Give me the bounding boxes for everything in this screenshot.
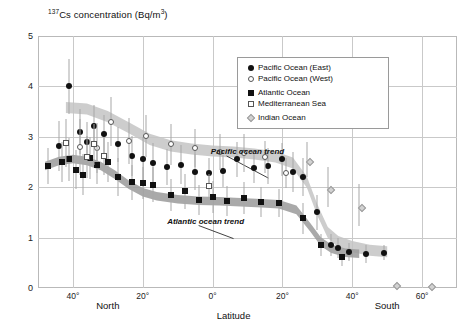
data-point — [241, 195, 247, 201]
x-axis-tick-label: 60° — [416, 291, 429, 301]
data-point — [150, 160, 156, 166]
legend-item: Mediterranean Sea — [244, 98, 382, 109]
data-point — [45, 163, 51, 169]
data-point — [258, 199, 264, 205]
data-point — [192, 145, 198, 151]
data-point — [192, 169, 198, 175]
data-point — [108, 119, 114, 125]
gridline-vertical — [73, 36, 74, 288]
data-point — [129, 179, 135, 185]
legend-item-label: Atlantic Ocean — [258, 88, 310, 97]
data-point — [363, 251, 369, 257]
gridline-vertical — [213, 36, 214, 288]
data-point — [182, 188, 188, 194]
data-point — [77, 144, 83, 150]
y-axis-tick-label: 4 — [28, 81, 33, 91]
data-point — [63, 140, 69, 146]
filled-circle-icon — [244, 65, 258, 71]
data-point — [105, 159, 111, 165]
data-point — [328, 242, 334, 248]
data-point — [251, 165, 257, 171]
data-point — [210, 194, 216, 200]
legend-item-label: Indian Ocean — [258, 113, 306, 122]
hemisphere-label-south: South — [375, 300, 400, 311]
data-point — [346, 249, 352, 255]
y-axis-tick-label: 1 — [28, 233, 33, 243]
data-point — [115, 174, 121, 180]
x-axis-tick-label: 0° — [209, 291, 217, 301]
y-axis-title: 137Cs concentration (Bq/m3) — [48, 8, 168, 20]
data-point — [314, 209, 320, 215]
legend-item: Indian Ocean — [244, 112, 382, 123]
legend-item-label: Mediterranean Sea — [258, 99, 326, 108]
data-point — [381, 250, 387, 256]
data-point — [115, 141, 121, 147]
x-axis-tick-label: 20° — [136, 291, 149, 301]
data-point — [265, 163, 271, 169]
legend-item-label: Pacific Ocean (East) — [258, 63, 331, 72]
legend-item: Pacific Ocean (East) — [244, 62, 382, 73]
data-point — [168, 192, 174, 198]
y-axis-tick-label: 5 — [28, 31, 33, 41]
legend-item-label: Pacific Ocean (West) — [258, 74, 333, 83]
annotation-label: Atlantic ocean trend — [167, 217, 244, 226]
y-axis-tick-label: 3 — [28, 132, 33, 142]
y-axis-title-close: ) — [164, 9, 167, 20]
open-square-icon — [244, 101, 258, 107]
filled-square-icon — [244, 90, 258, 96]
data-point — [140, 156, 146, 162]
annotation-label: Pacific ocean trend — [211, 146, 284, 155]
data-point — [129, 153, 135, 159]
x-axis-title: Latitude — [217, 310, 251, 321]
data-point — [91, 141, 97, 147]
legend: Pacific Ocean (East)Pacific Ocean (West)… — [237, 57, 389, 129]
data-point — [143, 133, 149, 139]
legend-item: Atlantic Ocean — [244, 87, 382, 98]
hemisphere-label-north: North — [96, 300, 119, 311]
data-point — [73, 167, 79, 173]
data-point — [66, 156, 72, 162]
data-point — [126, 138, 132, 144]
data-point — [84, 154, 90, 160]
y-axis-tick-label: 0 — [28, 283, 33, 293]
gridline-vertical — [422, 36, 423, 288]
data-point — [94, 162, 100, 168]
legend-rows: Pacific Ocean (East)Pacific Ocean (West)… — [244, 62, 382, 123]
chart-root: 137Cs concentration (Bq/m3) 54321040°20°… — [0, 0, 475, 334]
data-point — [339, 254, 345, 260]
data-point — [168, 141, 174, 147]
diamond-icon — [244, 115, 258, 121]
data-point — [276, 200, 282, 206]
data-point — [196, 197, 202, 203]
gridline-horizontal — [38, 238, 457, 239]
data-point — [220, 168, 226, 174]
data-point — [206, 183, 212, 189]
data-point — [140, 180, 146, 186]
x-axis-tick-label: 40° — [346, 291, 359, 301]
gridline-horizontal — [38, 137, 457, 138]
data-point — [283, 170, 289, 176]
y-axis-title-isotope: 137 — [48, 8, 59, 15]
y-axis-tick-label: 2 — [28, 182, 33, 192]
data-point — [178, 162, 184, 168]
x-axis-tick-label: 20° — [276, 291, 289, 301]
legend-item: Pacific Ocean (West) — [244, 73, 382, 84]
open-circle-icon — [244, 76, 258, 82]
y-axis-title-main: Cs concentration (Bq/m — [59, 9, 160, 20]
data-point — [224, 198, 230, 204]
data-point — [290, 169, 296, 175]
data-point — [300, 215, 306, 221]
data-point — [234, 156, 240, 162]
data-point — [101, 153, 107, 159]
data-point — [318, 242, 324, 248]
data-point — [164, 164, 170, 170]
data-point — [66, 83, 72, 89]
gridline-horizontal — [38, 187, 457, 188]
x-axis-tick-label: 40° — [66, 291, 79, 301]
data-point — [150, 182, 156, 188]
